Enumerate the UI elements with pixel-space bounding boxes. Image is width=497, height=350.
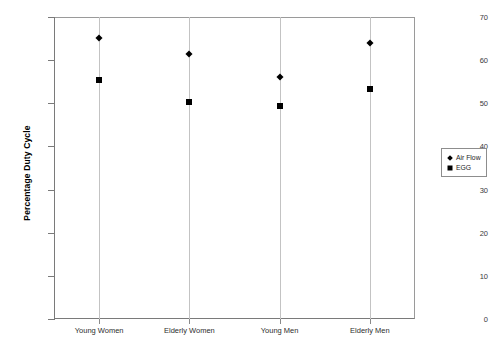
diamond-marker-icon [445, 153, 454, 162]
y-tick-label: 60 [453, 56, 497, 65]
y-tick-label: 0 [453, 315, 497, 324]
data-point-egg [277, 103, 283, 109]
legend-item-air-flow: Air Flow [445, 153, 481, 162]
category-rule [189, 17, 190, 319]
x-tick-label-elderly-men: Elderly Men [350, 326, 390, 335]
y-axis-title: Percentage Duty Cycle [22, 93, 32, 253]
y-tick-label: 30 [453, 185, 497, 194]
y-tick-label: 70 [453, 13, 497, 22]
y-tick-mark [48, 103, 55, 104]
y-tick-mark [48, 146, 55, 147]
category-rule [370, 17, 371, 319]
category-rule [280, 17, 281, 319]
x-tick-mark [189, 319, 190, 324]
data-point-egg [186, 99, 192, 105]
y-tick-mark [48, 319, 55, 320]
y-tick-mark [48, 60, 55, 61]
x-tick-mark [370, 319, 371, 324]
chart-legend: Air Flow EGG [441, 148, 487, 177]
category-rule [99, 17, 100, 319]
y-tick-mark [48, 190, 55, 191]
y-tick-label: 10 [453, 271, 497, 280]
chart-figure: Percentage Duty Cycle 010203040506070 Yo… [0, 0, 497, 350]
x-tick-mark [99, 319, 100, 324]
y-tick-label: 50 [453, 99, 497, 108]
square-marker-icon [445, 163, 454, 172]
legend-label-egg: EGG [456, 163, 471, 172]
y-tick-mark [48, 276, 55, 277]
y-tick-mark [48, 233, 55, 234]
legend-label-air-flow: Air Flow [456, 153, 481, 162]
data-point-egg [367, 86, 373, 92]
plot-area [54, 17, 415, 319]
legend-item-egg: EGG [445, 163, 481, 172]
data-point-egg [96, 77, 102, 83]
y-tick-label: 20 [453, 228, 497, 237]
x-tick-label-elderly-women: Elderly Women [164, 326, 215, 335]
y-tick-mark [48, 17, 55, 18]
x-tick-mark [280, 319, 281, 324]
x-tick-label-young-men: Young Men [261, 326, 299, 335]
x-tick-label-young-women: Young Women [75, 326, 124, 335]
